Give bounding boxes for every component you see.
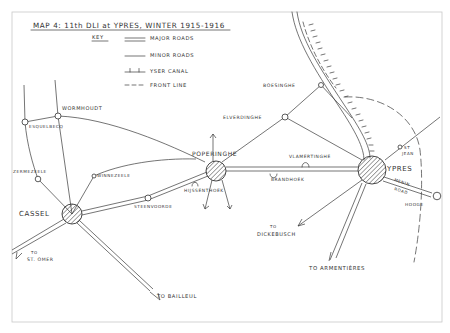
label-to-bailleul: TO BAILLEUL	[156, 293, 197, 299]
label-ypres: YPRES	[386, 165, 412, 173]
key-yser-canal: YSER CANAL	[125, 68, 188, 74]
yser-canal	[292, 12, 374, 160]
village-markers	[22, 83, 441, 202]
label-cassel: CASSEL	[19, 210, 50, 218]
key-minor-roads-label: MINOR ROADS	[150, 52, 194, 58]
label-to-st-omer-1: TO	[30, 250, 38, 255]
label-st-jean-2: JEAN	[401, 151, 414, 156]
label-menin-road-2: ROAD	[394, 186, 409, 195]
key-front-line: FRONT LINE	[125, 82, 187, 88]
key-front-line-label: FRONT LINE	[150, 82, 187, 88]
label-hijssenthoek: HIJSSENTHOEK	[184, 188, 224, 193]
label-to-armentieres: TO ARMENTIÈRES	[308, 265, 365, 271]
front-line	[345, 97, 422, 262]
label-to-dickebusch-2: DICKEBUSCH	[257, 231, 296, 237]
label-vlamertinghe: VLAMERTINGHE	[289, 154, 331, 159]
key-major-roads-label: MAJOR ROADS	[150, 35, 194, 42]
title-text: MAP 4: 11th DLI at YPRES, WINTER 1915-19…	[33, 21, 225, 30]
label-elverdinghe: ELVERDINGHE	[223, 115, 262, 120]
label-esquelbecq: ESQUELBECQ	[29, 124, 63, 129]
label-boesinghe: BOESINGHE	[263, 83, 296, 88]
label-winnezeele: WINNEZEELE	[97, 173, 130, 178]
label-steenvoorde: STEENVOORDE	[134, 204, 172, 209]
town-poperinghe	[206, 161, 226, 181]
label-to-st-omer-2: ST. OMER	[27, 257, 54, 262]
town-cassel	[62, 204, 82, 224]
label-brandhoek: BRANDHOEK	[271, 177, 304, 182]
label-hooge: HOOGE	[405, 202, 424, 207]
key-yser-canal-label: YSER CANAL	[149, 68, 188, 74]
map-title: MAP 4: 11th DLI at YPRES, WINTER 1915-19…	[31, 21, 230, 30]
label-st-jean-1: ST	[404, 145, 410, 150]
town-ypres	[358, 156, 386, 184]
label-poperinghe: POPERINGHE	[192, 150, 237, 157]
map-key: KEY MAJOR ROADS MINOR ROADS YSER CANAL F…	[92, 34, 194, 88]
major-roads	[12, 167, 432, 300]
label-wormhoudt: WORMHOUDT	[62, 105, 103, 111]
label-zermezeele: ZERMEZEELE	[13, 169, 47, 174]
label-to-dickebusch-1: TO	[269, 224, 277, 229]
key-major-roads: MAJOR ROADS	[125, 35, 194, 42]
map-canvas: MAP 4: 11th DLI at YPRES, WINTER 1915-19…	[0, 0, 450, 333]
key-minor-roads: MINOR ROADS	[125, 52, 194, 58]
key-heading: KEY	[92, 34, 104, 40]
